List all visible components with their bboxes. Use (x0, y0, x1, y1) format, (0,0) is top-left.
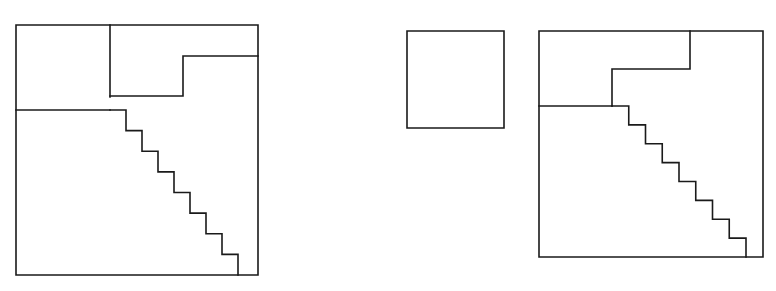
diagram-canvas (0, 0, 776, 291)
figure-1-staircase (110, 110, 238, 275)
figures-svg (0, 0, 776, 291)
figure-2-group (407, 31, 504, 128)
figure-3-staircase (612, 106, 746, 257)
figure-3-notch-outline (612, 31, 690, 106)
figure-2-outer-square (407, 31, 504, 128)
figure-3-group (539, 31, 763, 257)
figure-1-notch-outline (110, 56, 258, 96)
figure-1-group (16, 25, 258, 275)
